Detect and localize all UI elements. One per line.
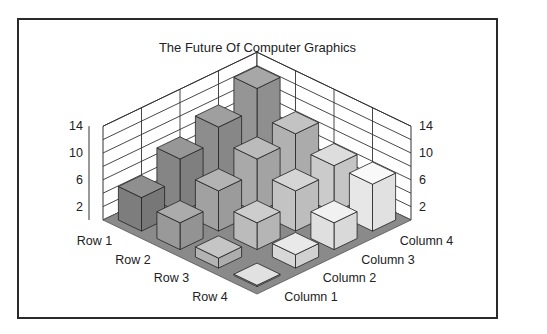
z-tick-label-right: 10 bbox=[419, 146, 433, 160]
z-tick-label-left: 2 bbox=[76, 200, 83, 214]
z-tick-label-right: 2 bbox=[419, 200, 426, 214]
column-label: Column 1 bbox=[284, 290, 338, 304]
bar3d-chart: 226610101414Row 1Row 2Row 3Row 4Column 1… bbox=[0, 0, 547, 334]
column-label: Column 3 bbox=[361, 253, 415, 267]
column-label: Column 4 bbox=[400, 234, 454, 248]
row-label: Row 3 bbox=[154, 271, 189, 285]
row-label: Row 4 bbox=[192, 290, 227, 304]
z-tick-label-left: 10 bbox=[69, 146, 83, 160]
z-tick-label-right: 6 bbox=[419, 173, 426, 187]
row-label: Row 1 bbox=[77, 234, 112, 248]
z-tick-label-right: 14 bbox=[419, 119, 433, 133]
z-tick-label-left: 14 bbox=[69, 119, 83, 133]
z-tick-label-left: 6 bbox=[76, 173, 83, 187]
row-label: Row 2 bbox=[115, 253, 150, 267]
column-label: Column 2 bbox=[323, 271, 377, 285]
